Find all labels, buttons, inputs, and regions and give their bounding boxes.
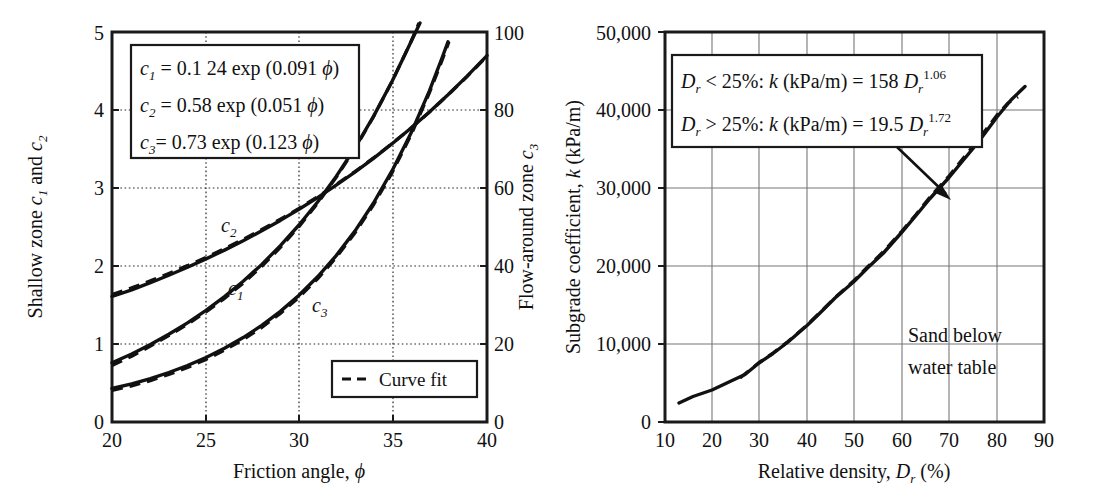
drlabel-50: 50 [844,429,864,451]
annotation-line-1: Sand below [908,324,1002,346]
ylabel-tick-4: 4 [94,99,104,121]
arrowhead-icon [933,184,951,200]
ylabel-tick-3: 3 [94,177,104,199]
figure-container: 0 1 2 3 4 5 0 20 40 60 80 [0,0,1101,499]
xlabel-tick-30: 30 [289,429,309,451]
drlabel-60: 60 [892,429,912,451]
y-axis-labels-right-chart: 0 10,000 20,000 30,000 40,000 50,000 [596,22,651,433]
drlabel-30: 30 [749,429,769,451]
xlabel-tick-35: 35 [383,429,403,451]
drlabel-40: 40 [797,429,817,451]
klabel-50000: 50,000 [596,22,651,44]
callout-arrow [897,147,951,200]
y-axis-left-labels: 0 1 2 3 4 5 [94,22,104,433]
x-axis-labels-left: 20 25 30 35 40 [102,429,497,451]
drlabel-20: 20 [702,429,722,451]
svg-text:Flow-around zone c3: Flow-around zone c3 [515,143,541,310]
klabel-0: 0 [641,411,651,433]
shallow-zone-svg: 0 1 2 3 4 5 0 20 40 60 80 [0,0,550,499]
drlabel-10: 10 [655,429,675,451]
yrlabel-tick-100: 100 [494,22,524,44]
svg-text:Shallow zone c1 and c2: Shallow zone c1 and c2 [24,135,50,318]
yrlabel-tick-60: 60 [494,177,514,199]
yrlabel-tick-40: 40 [494,255,514,277]
xlabel-tick-20: 20 [102,429,122,451]
chart-panel-shallow-zone: 0 1 2 3 4 5 0 20 40 60 80 [0,0,550,499]
klabel-40000: 40,000 [596,99,651,121]
yrlabel-tick-20: 20 [494,333,514,355]
ylabel-tick-5: 5 [94,22,104,44]
legend-label-curve-fit: Curve fit [379,369,448,390]
klabel-10000: 10,000 [596,333,651,355]
drlabel-90: 90 [1034,429,1054,451]
annotation-line-2: water table [908,356,996,378]
ylabel-tick-1: 1 [94,333,104,355]
xlabel-tick-40: 40 [477,429,497,451]
annotation-sand-below-water-table: Sand below water table [908,324,1002,378]
equation-box-left: c1 = 0.1 24 exp (0.091 ϕ) c2 = 0.58 exp … [131,45,359,158]
klabel-20000: 20,000 [596,255,651,277]
x-axis-title-right: Relative density, Dr (%) [758,460,951,486]
curve-label-c3: c3 [312,294,328,320]
y-axis-title-right-chart: Subgrade coefficient, k (kPa/m) [562,100,585,354]
xlabel-tick-25: 25 [196,429,216,451]
yrlabel-tick-80: 80 [494,99,514,121]
drlabel-70: 70 [939,429,959,451]
equation-box-right: Dr < 25%: k (kPa/m) = 158 Dr1.06 Dr > 25… [672,55,982,147]
y-axis-title-right: Flow-around zone c3 [515,143,541,310]
y-axis-title-left: Shallow zone c1 and c2 [24,135,50,318]
ylabel-tick-2: 2 [94,255,104,277]
klabel-30000: 30,000 [596,177,651,199]
legend-left[interactable]: Curve fit [332,361,477,397]
equation-line-dr-lt-25: Dr < 25%: k (kPa/m) = 158 Dr1.06 [680,67,946,96]
drlabel-80: 80 [987,429,1007,451]
curve-label-c2: c2 [221,214,237,240]
x-axis-labels-right-chart: 10 20 30 40 50 60 70 80 90 [655,429,1054,451]
x-axis-title-left: Friction angle, ϕ [233,460,365,483]
svg-text:Subgrade coefficient, k (kPa/m: Subgrade coefficient, k (kPa/m) [562,100,585,354]
chart-panel-subgrade-coefficient: 0 10,000 20,000 30,000 40,000 50,000 10 … [550,0,1101,499]
subgrade-coefficient-svg: 0 10,000 20,000 30,000 40,000 50,000 10 … [550,0,1101,499]
equation-line-dr-gt-25: Dr > 25%: k (kPa/m) = 19.5 Dr1.72 [680,110,951,139]
